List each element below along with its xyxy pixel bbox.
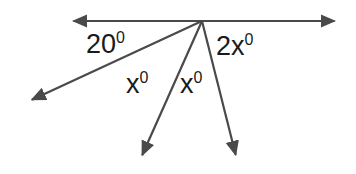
angle-value-right-exterior: 2x bbox=[216, 31, 245, 61]
angle-value-inner-left: x bbox=[126, 69, 140, 99]
angle-label-inner-left: x0 bbox=[126, 70, 148, 98]
geometry-canvas bbox=[0, 0, 356, 174]
degree-symbol-right-exterior: 0 bbox=[245, 31, 254, 48]
degree-symbol-inner-left: 0 bbox=[140, 69, 149, 86]
angle-label-right-exterior: 2x0 bbox=[216, 32, 253, 60]
angle-label-inner-right: x0 bbox=[180, 70, 202, 98]
degree-symbol-left-exterior: 0 bbox=[116, 29, 125, 46]
angle-label-left-exterior: 200 bbox=[86, 30, 125, 58]
angle-value-left-exterior: 20 bbox=[86, 29, 116, 59]
angle-value-inner-right: x bbox=[180, 69, 194, 99]
geometry-diagram: 200 2x0 x0 x0 bbox=[0, 0, 356, 174]
degree-symbol-inner-right: 0 bbox=[194, 69, 203, 86]
